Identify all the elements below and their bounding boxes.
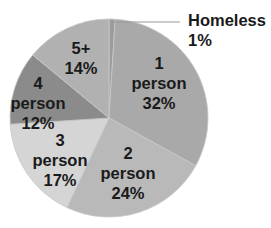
slice-label-homeless: Homeless1% [188,11,266,49]
pie-chart: Homeless1%1person32%2person24%3person17%… [0,0,271,228]
